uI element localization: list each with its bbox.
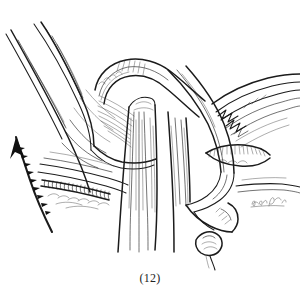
anatomical-illustration (0, 0, 300, 291)
figure-container: (12) (0, 0, 300, 291)
figure-caption: (12) (140, 271, 161, 285)
figure-caption-bar: (12) (0, 271, 300, 285)
illustration-background (0, 0, 300, 291)
